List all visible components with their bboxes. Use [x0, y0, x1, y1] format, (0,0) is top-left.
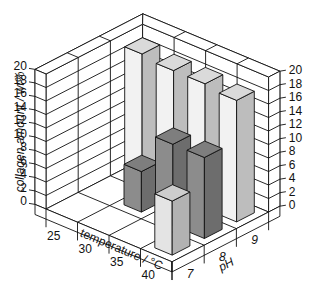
z-tick-right: 18 [289, 77, 303, 91]
temperature-tick: 40 [142, 268, 156, 282]
bar-40C-pH9 [219, 84, 254, 222]
z-tick-left: 20 [14, 59, 28, 73]
temperature-tick: 30 [79, 242, 93, 256]
temperature-tick: 25 [47, 229, 61, 243]
z-tick-right: 14 [289, 104, 303, 118]
bar-30C-pH8 [124, 155, 159, 212]
z-tick-right: 16 [289, 90, 303, 104]
bar-40C-pH7 [155, 185, 190, 255]
ph-tick: 7 [187, 267, 195, 281]
z-tick-right: 20 [289, 63, 303, 77]
z-tick-right: 8 [289, 144, 296, 158]
z-tick-right: 6 [289, 158, 296, 172]
bar-40C-pH8 [187, 141, 222, 238]
z-tick-right: 4 [289, 171, 296, 185]
z-axis-title: collagen amount / wt% [13, 71, 27, 192]
3d-bar-chart: 0246810121416182002468101214161820253035… [0, 0, 314, 290]
temperature-tick: 35 [110, 255, 124, 269]
z-tick-right: 2 [289, 185, 296, 199]
ph-tick: 9 [251, 233, 258, 247]
z-tick-right: 0 [289, 198, 296, 212]
z-tick-left: 0 [20, 194, 27, 208]
z-tick-right: 10 [289, 131, 303, 145]
z-tick-right: 12 [289, 117, 303, 131]
